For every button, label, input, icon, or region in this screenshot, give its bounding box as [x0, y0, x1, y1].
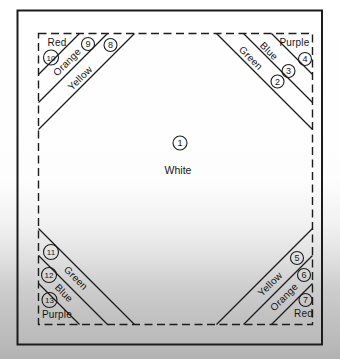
piece-3-number: 3 [286, 66, 291, 76]
piece-13-number: 13 [45, 296, 54, 305]
top-left-red-label: Red [48, 37, 67, 48]
piece-10-number: 10 [47, 54, 56, 63]
top-right-purple-label: Purple [279, 37, 309, 48]
piece-7-number: 7 [303, 295, 308, 305]
piece-4-number: 4 [302, 54, 307, 64]
piece-1-number: 1 [177, 138, 182, 148]
piece-6-number: 6 [301, 270, 306, 280]
center-color-label: White [165, 164, 192, 176]
piece-9-number: 9 [85, 39, 90, 49]
bottom-left-purple-label: Purple [42, 309, 72, 320]
piece-5-number: 5 [294, 253, 299, 263]
piece-2-number: 2 [275, 77, 280, 87]
piece-8-number: 8 [108, 40, 113, 50]
quilt-block-piecing-diagram: 1 White Red 10 9 8 Orange Yellow Purple … [0, 0, 340, 359]
bottom-right-red-label: Red [294, 308, 313, 319]
piece-11-number: 11 [47, 248, 56, 257]
piece-12-number: 12 [45, 271, 54, 280]
diagram-page: 1 White Red 10 9 8 Orange Yellow Purple … [0, 0, 340, 359]
